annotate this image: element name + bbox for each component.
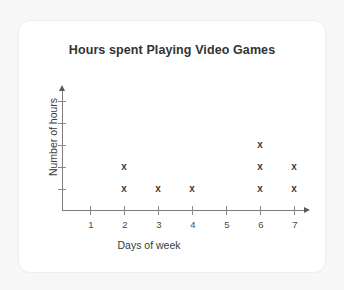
- data-point-marker: x: [151, 184, 165, 194]
- data-point-marker: x: [253, 140, 267, 150]
- x-axis-tick-label: 7: [287, 219, 303, 230]
- x-axis-arrow-icon: [304, 207, 310, 213]
- data-point-marker: x: [253, 184, 267, 194]
- x-axis-tick-label: 1: [83, 219, 99, 230]
- data-point-marker: x: [287, 162, 301, 172]
- x-axis-tick-label: 2: [117, 219, 133, 230]
- x-axis-tick: [158, 206, 159, 215]
- data-point-marker: x: [253, 162, 267, 172]
- x-axis-label: Days of week: [79, 239, 219, 251]
- y-axis-tick: [58, 145, 66, 146]
- x-axis-tick: [226, 206, 227, 215]
- data-point-marker: x: [185, 184, 199, 194]
- x-axis-tick-label: 6: [253, 219, 269, 230]
- x-axis-tick: [90, 206, 91, 215]
- x-axis-tick: [192, 206, 193, 215]
- screenshot-root: Hours spent Playing Video Games Number o…: [0, 0, 344, 290]
- x-axis-tick-label: 3: [151, 219, 167, 230]
- x-axis-tick: [124, 206, 125, 215]
- y-axis-tick: [58, 189, 66, 190]
- y-axis-tick: [58, 101, 66, 102]
- y-axis-arrow-icon: [59, 85, 65, 91]
- x-axis-tick-label: 4: [185, 219, 201, 230]
- data-point-marker: x: [117, 162, 131, 172]
- data-point-marker: x: [117, 184, 131, 194]
- x-axis-line: [62, 210, 304, 211]
- x-axis-tick: [260, 206, 261, 215]
- y-axis-label: Number of hours: [47, 77, 59, 197]
- scatter-plot: Number of hours Days of week 1 2: [19, 21, 327, 274]
- data-point-marker: x: [287, 184, 301, 194]
- y-axis-tick: [58, 123, 66, 124]
- x-axis-tick-label: 5: [219, 219, 235, 230]
- x-axis-tick: [294, 206, 295, 215]
- chart-card: Hours spent Playing Video Games Number o…: [18, 20, 326, 273]
- y-axis-line: [62, 91, 63, 211]
- y-axis-tick: [58, 167, 66, 168]
